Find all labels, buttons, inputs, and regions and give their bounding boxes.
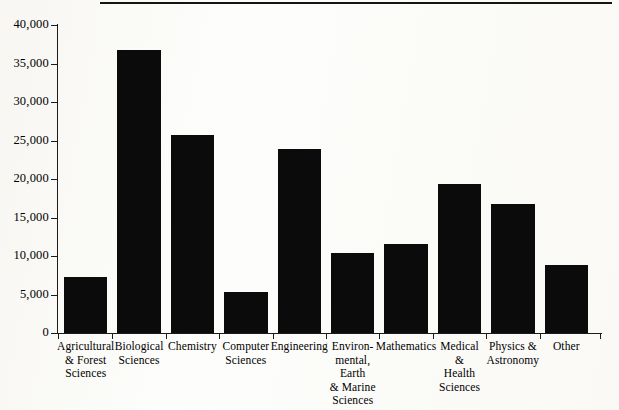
x-tick-mark [486,333,487,339]
bar [331,253,374,333]
bar [491,204,534,333]
y-tick-mark [51,295,57,296]
x-tick-mark [219,333,220,339]
y-tick-mark [51,141,57,142]
x-tick-label: Biological Sciences [108,340,169,367]
y-tick-label: 0 [0,324,49,341]
y-tick-label: 25,000 [0,132,49,149]
x-tick-label: Environ- mental, Earth & Marine Sciences [322,340,383,408]
x-tick-mark [540,333,541,339]
x-tick-label: Other [536,340,597,354]
x-axis-line [57,333,602,334]
x-tick-mark [600,333,601,339]
bar [224,292,267,333]
y-tick-mark [51,179,57,180]
chart-page: 05,00010,00015,00020,00025,00030,00035,0… [0,0,619,410]
y-tick-mark [51,256,57,257]
y-tick-label: 30,000 [0,93,49,110]
y-tick-mark [51,218,57,219]
x-tick-label: Engineering [269,340,330,354]
bar [64,277,107,333]
bar [545,265,588,333]
y-tick-mark [51,102,57,103]
bar [117,50,160,333]
y-tick-label: 20,000 [0,170,49,187]
x-tick-mark [58,333,59,339]
x-tick-label: Chemistry [162,340,223,354]
x-tick-label: Medical & Health Sciences [429,340,490,394]
bar [384,244,427,333]
x-tick-mark [112,333,113,339]
bar [438,184,481,333]
y-tick-mark [51,333,57,334]
x-tick-label: Mathematics [375,340,436,354]
y-tick-label: 40,000 [0,16,49,33]
x-tick-mark [166,333,167,339]
bar [278,149,321,333]
x-tick-label: Physics & Astronomy [482,340,543,367]
y-tick-label: 5,000 [0,286,49,303]
y-axis-line [57,24,58,334]
y-tick-label: 35,000 [0,55,49,72]
y-tick-mark [51,25,57,26]
x-tick-label: Computer Sciences [215,340,276,367]
x-tick-mark [379,333,380,339]
bar [171,135,214,333]
bar-chart: 05,00010,00015,00020,00025,00030,00035,0… [0,0,619,410]
x-tick-label: Agricultural & Forest Sciences [55,340,116,381]
x-tick-mark [326,333,327,339]
x-tick-mark [273,333,274,339]
y-tick-label: 10,000 [0,247,49,264]
y-tick-mark [51,64,57,65]
x-tick-mark [433,333,434,339]
y-tick-label: 15,000 [0,209,49,226]
